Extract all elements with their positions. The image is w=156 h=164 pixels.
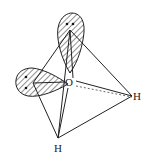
water-molecule-diagram: O H H <box>0 0 156 164</box>
electron-dot <box>72 23 75 26</box>
electron-dot <box>25 76 28 79</box>
oxygen-label: O <box>65 76 73 88</box>
edge-bottom-right <box>58 96 132 138</box>
electron-dot <box>66 23 69 26</box>
hydrogen-label-bottom: H <box>54 142 62 154</box>
bond-o-h-right <box>76 81 132 96</box>
electron-dot <box>25 87 28 90</box>
edge-top-right <box>70 30 132 96</box>
hydrogen-label-right: H <box>133 90 141 102</box>
